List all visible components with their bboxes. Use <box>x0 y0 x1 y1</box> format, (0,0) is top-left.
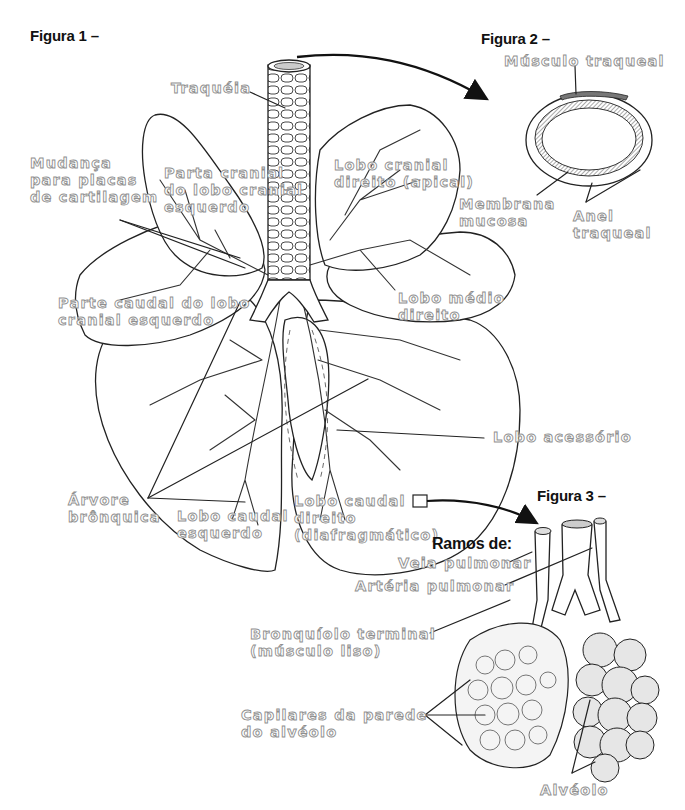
figure-3-title: Figura 3 – <box>537 487 606 504</box>
label-mucous-membrane: Membrana mucosa <box>459 196 555 230</box>
label-left-cranial-lobe-caudal-part: Parte caudal do lobo cranial esquerdo <box>58 295 251 329</box>
label-branches-of: Ramos de: <box>432 535 512 553</box>
label-alveolar-capillaries: Capilares da parede do alvéolo <box>241 707 428 741</box>
label-tracheal-ring: Anel traqueal <box>573 208 652 242</box>
figure-1-title: Figura 1 – <box>30 27 99 44</box>
figure-2-title: Figura 2 – <box>481 30 550 47</box>
label-accessory-lobe: Lobo acessório <box>493 429 632 446</box>
label-tracheal-muscle: Músculo traqueal <box>504 53 665 70</box>
label-alveolus: Alvéolo <box>540 782 609 799</box>
label-cartilage-change: Mudança para placas de cartilagem <box>30 155 158 206</box>
tracheal-cross-section <box>526 66 652 202</box>
label-pulmonary-artery: Artéria pulmonar <box>355 578 514 595</box>
label-pulmonary-vein: Veia pulmonar <box>398 555 532 572</box>
lung-anatomy-illustration <box>0 0 685 810</box>
label-right-middle-lobe: Lobo médio direito <box>398 290 505 324</box>
label-left-caudal-lobe: Lobo caudal esquerdo <box>177 508 289 542</box>
label-trachea: Traquéia <box>171 80 251 97</box>
label-right-caudal-lobe: Lobo caudal direito (diafragmático) <box>294 493 439 544</box>
label-bronchial-tree: Árvore brônquica <box>68 492 161 526</box>
label-right-cranial-lobe: Lobo cranial direito (apical) <box>334 157 474 191</box>
label-terminal-bronchiole: Bronquíolo terminal (músculo liso) <box>250 626 436 660</box>
arrow-to-figure-2 <box>297 55 485 98</box>
label-left-cranial-lobe-cranial-part: Parta cranial do lobo cranial esquerdo <box>164 165 303 216</box>
